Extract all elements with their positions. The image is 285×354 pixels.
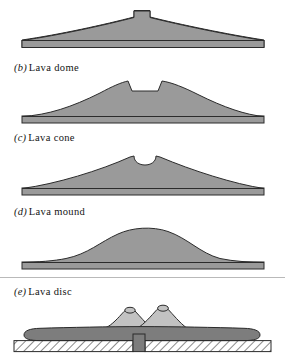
lava-disc-profile — [0, 298, 285, 354]
lava-dome-base-slab — [22, 116, 264, 123]
lava-disc-cone-right-crater — [158, 305, 169, 311]
lava-cone-body — [22, 156, 264, 189]
caption-text-e: Lava disc — [26, 286, 72, 297]
caption-text-d: Lava mound — [27, 206, 85, 217]
panel-lava-disc: (e)Lava disc — [0, 278, 285, 354]
panel-lava-cone: (c)Lava cone — [0, 130, 285, 202]
feeder-conduit — [133, 334, 145, 352]
panel-lava-shield — [0, 0, 285, 58]
lava-dome-profile — [0, 74, 285, 130]
caption-enumerator-c: (c) — [14, 132, 26, 143]
caption-lava-disc: (e)Lava disc — [14, 286, 72, 297]
caption-lava-mound: (d)Lava mound — [14, 206, 85, 217]
panel-lava-dome: (b)Lava dome — [0, 58, 285, 130]
bedrock-right — [145, 341, 271, 352]
lava-shield-base-slab — [22, 41, 264, 48]
lava-dome-body — [22, 81, 264, 117]
caption-enumerator-e: (e) — [14, 286, 26, 297]
lava-disc-cones — [106, 305, 186, 327]
caption-lava-dome: (b)Lava dome — [14, 62, 79, 73]
lava-disc-cone-left-crater — [125, 307, 135, 313]
lava-cone-base-slab — [22, 188, 264, 195]
lava-mound-profile — [0, 220, 285, 276]
caption-text-c: Lava cone — [26, 132, 75, 143]
lava-shield-cone — [22, 11, 264, 41]
lava-shield-profile — [0, 0, 285, 58]
caption-enumerator-d: (d) — [14, 206, 27, 217]
figure-sheet: (b)Lava dome (c)Lava cone (d)Lava mound — [0, 0, 285, 354]
caption-enumerator-b: (b) — [14, 62, 27, 73]
lava-mound-base-slab — [22, 262, 264, 269]
panel-lava-mound: (d)Lava mound — [0, 202, 285, 276]
lava-mound-body — [22, 228, 264, 262]
caption-text-b: Lava dome — [27, 62, 79, 73]
bedrock-left — [14, 341, 133, 352]
lava-cone-profile — [0, 144, 285, 202]
caption-lava-cone: (c)Lava cone — [14, 132, 75, 143]
